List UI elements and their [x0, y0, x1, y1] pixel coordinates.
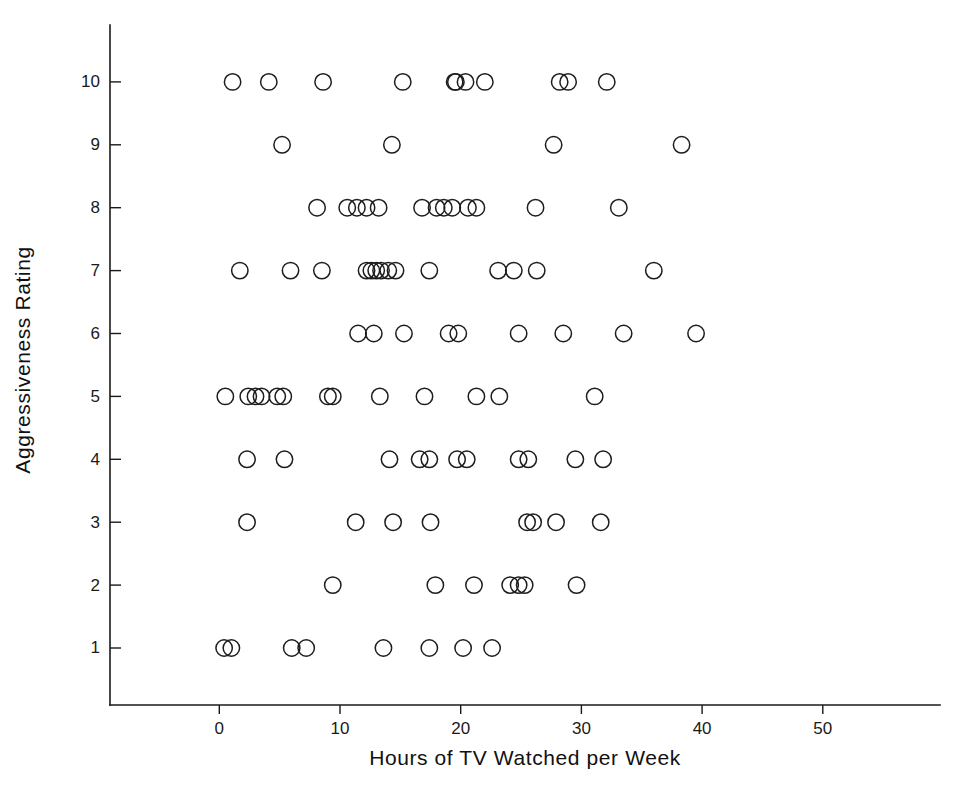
data-point: [455, 640, 471, 656]
data-point: [411, 451, 427, 467]
data-point: [520, 451, 536, 467]
data-point: [646, 262, 662, 278]
data-point: [510, 325, 526, 341]
data-point: [232, 262, 248, 278]
data-points-layer: [216, 74, 704, 657]
data-point: [224, 74, 240, 90]
x-tick-label: 0: [215, 719, 224, 738]
data-point: [396, 325, 412, 341]
data-point: [567, 451, 583, 467]
data-point: [347, 514, 363, 530]
y-tick-label: 1: [91, 638, 100, 657]
data-point: [615, 325, 631, 341]
data-point: [416, 388, 432, 404]
y-tick-label: 5: [91, 387, 100, 406]
data-point: [466, 577, 482, 593]
data-point: [239, 514, 255, 530]
data-point: [599, 74, 615, 90]
data-point: [381, 451, 397, 467]
y-tick-label: 9: [91, 135, 100, 154]
data-point: [372, 388, 388, 404]
x-tick-label: 20: [451, 719, 470, 738]
data-point: [421, 640, 437, 656]
data-point: [274, 137, 290, 153]
y-axis-title: Aggressiveness Rating: [11, 246, 34, 473]
data-point: [457, 74, 473, 90]
data-point: [449, 451, 465, 467]
y-axis-ticks: 12345678910: [81, 72, 121, 657]
x-tick-label: 40: [693, 719, 712, 738]
y-tick-label: 4: [91, 450, 100, 469]
data-point: [586, 388, 602, 404]
plot-canvas: 12345678910 01020304050 Hours of TV Watc…: [0, 0, 963, 797]
data-point: [491, 388, 507, 404]
data-point: [366, 325, 382, 341]
data-point: [548, 514, 564, 530]
data-point: [421, 262, 437, 278]
data-point: [216, 640, 232, 656]
data-point: [380, 262, 396, 278]
x-tick-label: 10: [331, 719, 350, 738]
y-tick-label: 10: [81, 72, 100, 91]
data-point: [239, 451, 255, 467]
data-point: [384, 137, 400, 153]
data-point: [440, 325, 456, 341]
data-point: [545, 137, 561, 153]
x-axis-ticks: 01020304050: [215, 705, 833, 738]
data-point: [568, 577, 584, 593]
x-tick-label: 30: [572, 719, 591, 738]
data-point: [282, 262, 298, 278]
data-point: [555, 325, 571, 341]
data-point: [510, 451, 526, 467]
y-tick-label: 7: [91, 261, 100, 280]
data-point: [484, 640, 500, 656]
data-point: [315, 74, 331, 90]
data-point: [314, 262, 330, 278]
data-point: [223, 640, 239, 656]
data-point: [350, 325, 366, 341]
data-point: [349, 200, 365, 216]
data-point: [217, 388, 233, 404]
data-point: [527, 200, 543, 216]
data-point: [490, 262, 506, 278]
x-axis-title: Hours of TV Watched per Week: [369, 746, 681, 769]
data-point: [529, 262, 545, 278]
data-point: [688, 325, 704, 341]
data-point: [595, 451, 611, 467]
data-point: [477, 74, 493, 90]
data-point: [395, 74, 411, 90]
data-point: [276, 451, 292, 467]
data-point: [339, 200, 355, 216]
y-tick-label: 8: [91, 198, 100, 217]
data-point: [611, 200, 627, 216]
data-point: [506, 262, 522, 278]
data-point: [385, 514, 401, 530]
data-point: [421, 451, 437, 467]
data-point: [375, 640, 391, 656]
data-point: [673, 137, 689, 153]
data-point: [261, 74, 277, 90]
data-point: [450, 325, 466, 341]
data-point: [593, 514, 609, 530]
scatter-plot-figure: 12345678910 01020304050 Hours of TV Watc…: [0, 0, 963, 797]
y-tick-label: 2: [91, 576, 100, 595]
y-tick-label: 6: [91, 324, 100, 343]
data-point: [309, 200, 325, 216]
data-point: [468, 388, 484, 404]
data-point: [422, 514, 438, 530]
x-tick-label: 50: [813, 719, 832, 738]
data-point: [370, 200, 386, 216]
data-point: [427, 577, 443, 593]
data-point: [459, 451, 475, 467]
y-tick-label: 3: [91, 513, 100, 532]
data-point: [448, 74, 464, 90]
data-point: [325, 577, 341, 593]
